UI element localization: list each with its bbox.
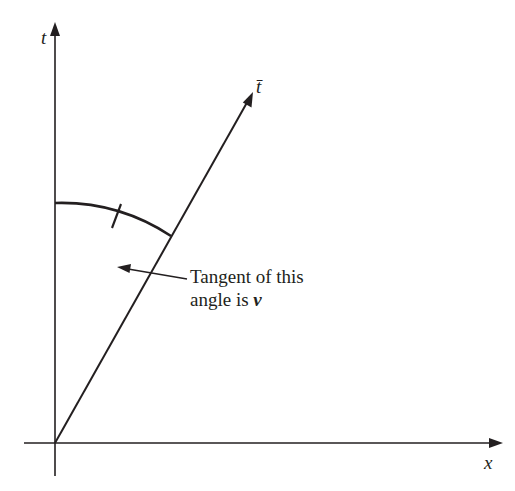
angle-annotation: Tangent of this angle is v bbox=[190, 265, 304, 311]
spacetime-diagram: t t̄ x Tangent of this angle is v bbox=[0, 0, 515, 491]
diagram-canvas bbox=[0, 0, 515, 491]
angle-arc bbox=[55, 203, 171, 236]
t-bar-axis-label: t̄ bbox=[256, 76, 261, 98]
velocity-variable: v bbox=[253, 289, 261, 310]
annotation-line-2-prefix: angle is bbox=[190, 289, 253, 310]
annotation-line-2: angle is v bbox=[190, 288, 304, 311]
t-axis-label: t bbox=[41, 27, 46, 49]
t-bar-axis-arrow-icon bbox=[243, 92, 253, 108]
pointer-arrow-icon bbox=[117, 264, 131, 273]
t-axis-arrow-icon bbox=[50, 22, 60, 36]
x-axis-label: x bbox=[484, 452, 492, 474]
angle-tick bbox=[112, 204, 121, 228]
annotation-line-1: Tangent of this bbox=[190, 265, 304, 288]
t-axis bbox=[50, 22, 60, 476]
x-axis bbox=[24, 438, 503, 448]
x-axis-arrow-icon bbox=[489, 438, 503, 448]
